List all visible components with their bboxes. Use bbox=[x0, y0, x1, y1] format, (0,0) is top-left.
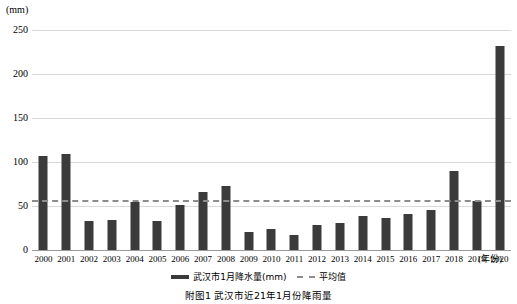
bar-2003 bbox=[107, 220, 116, 250]
x-tick-label-2014: 2014 bbox=[354, 253, 372, 265]
bar-swatch-icon bbox=[171, 275, 189, 279]
y-tick-label-50: 50 bbox=[18, 201, 28, 211]
y-tick-label-250: 250 bbox=[13, 25, 28, 35]
x-tick-label-2001: 2001 bbox=[57, 253, 75, 265]
x-tick-label-2018: 2018 bbox=[445, 253, 463, 265]
chart-figure: (mm) 050100150200250 2000200120022003200… bbox=[0, 0, 517, 304]
x-tick-label-2015: 2015 bbox=[377, 253, 395, 265]
bar-2000 bbox=[39, 156, 48, 250]
x-tick-label-2000: 2000 bbox=[34, 253, 52, 265]
x-tick-label-2010: 2010 bbox=[263, 253, 281, 265]
y-tick-label-0: 0 bbox=[23, 245, 28, 255]
x-tick-label-2007: 2007 bbox=[194, 253, 212, 265]
bar-slot bbox=[192, 30, 215, 250]
x-tick-label-2006: 2006 bbox=[171, 253, 189, 265]
bar-slot bbox=[306, 30, 329, 250]
bar-slot bbox=[169, 30, 192, 250]
x-tick-label-2004: 2004 bbox=[126, 253, 144, 265]
x-tick-label-2013: 2013 bbox=[331, 253, 349, 265]
bar-slot bbox=[420, 30, 443, 250]
y-tick-label-100: 100 bbox=[13, 157, 28, 167]
bar-2011 bbox=[290, 235, 299, 250]
legend-label-average: 平均值 bbox=[319, 271, 346, 283]
x-axis-tick-labels: 2000200120022003200420052006200720082009… bbox=[32, 253, 511, 267]
bar-2004 bbox=[130, 202, 139, 250]
y-tick-label-150: 150 bbox=[13, 113, 28, 123]
bar-series bbox=[32, 30, 511, 250]
bar-slot bbox=[55, 30, 78, 250]
bar-slot bbox=[329, 30, 352, 250]
y-axis-unit-label: (mm) bbox=[6, 4, 28, 16]
bar-2012 bbox=[313, 225, 322, 250]
bar-2018 bbox=[449, 171, 458, 250]
bar-slot bbox=[443, 30, 466, 250]
bar-slot bbox=[32, 30, 55, 250]
average-line bbox=[32, 200, 511, 202]
dashed-line-swatch-icon bbox=[297, 276, 315, 278]
bar-2008 bbox=[221, 186, 230, 250]
bar-slot bbox=[214, 30, 237, 250]
x-tick-label-2011: 2011 bbox=[285, 253, 303, 265]
bar-2001 bbox=[62, 154, 71, 250]
x-tick-label-2009: 2009 bbox=[240, 253, 258, 265]
bar-slot bbox=[283, 30, 306, 250]
gridline-0 bbox=[32, 250, 511, 251]
bar-slot bbox=[397, 30, 420, 250]
bar-2015 bbox=[381, 218, 390, 250]
legend-label-precipitation: 武汉市1月降水量(mm) bbox=[193, 271, 286, 283]
bar-slot bbox=[100, 30, 123, 250]
y-tick-label-200: 200 bbox=[13, 69, 28, 79]
bar-2005 bbox=[153, 221, 162, 250]
chart-legend: 武汉市1月降水量(mm) 平均值 bbox=[0, 271, 517, 283]
bar-2020 bbox=[495, 46, 504, 250]
bar-slot bbox=[465, 30, 488, 250]
bar-slot bbox=[123, 30, 146, 250]
bar-slot bbox=[351, 30, 374, 250]
x-tick-label-2002: 2002 bbox=[80, 253, 98, 265]
bar-slot bbox=[260, 30, 283, 250]
bar-2006 bbox=[176, 205, 185, 250]
x-tick-label-2016: 2016 bbox=[399, 253, 417, 265]
bar-slot bbox=[237, 30, 260, 250]
bar-2019 bbox=[472, 201, 481, 250]
bar-2017 bbox=[427, 210, 436, 250]
bar-slot bbox=[146, 30, 169, 250]
legend-item-average: 平均值 bbox=[297, 271, 346, 283]
x-tick-label-2012: 2012 bbox=[308, 253, 326, 265]
x-axis-title: (年份) bbox=[478, 253, 502, 265]
plot-area: 050100150200250 bbox=[32, 30, 511, 250]
legend-item-precipitation: 武汉市1月降水量(mm) bbox=[171, 271, 286, 283]
bar-2010 bbox=[267, 229, 276, 250]
bar-2013 bbox=[335, 223, 344, 250]
x-tick-label-2003: 2003 bbox=[103, 253, 121, 265]
bar-2016 bbox=[404, 214, 413, 250]
figure-caption: 附图1 武汉市近21年1月份降雨量 bbox=[0, 289, 517, 302]
x-tick-label-2008: 2008 bbox=[217, 253, 235, 265]
x-tick-label-2005: 2005 bbox=[148, 253, 166, 265]
bar-2014 bbox=[358, 216, 367, 250]
bar-2009 bbox=[244, 232, 253, 250]
bar-2002 bbox=[85, 221, 94, 250]
bar-slot bbox=[78, 30, 101, 250]
x-tick-label-2017: 2017 bbox=[422, 253, 440, 265]
bar-slot bbox=[488, 30, 511, 250]
bar-slot bbox=[374, 30, 397, 250]
